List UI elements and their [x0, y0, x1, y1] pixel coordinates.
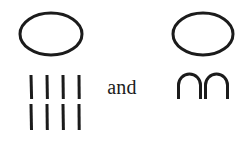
figure-background [0, 0, 245, 142]
figure-canvas: and [0, 0, 245, 142]
figure-drawing [0, 0, 245, 142]
conjunction-label: and [99, 77, 145, 97]
tally-mark [31, 104, 32, 130]
tally-mark [31, 75, 32, 99]
